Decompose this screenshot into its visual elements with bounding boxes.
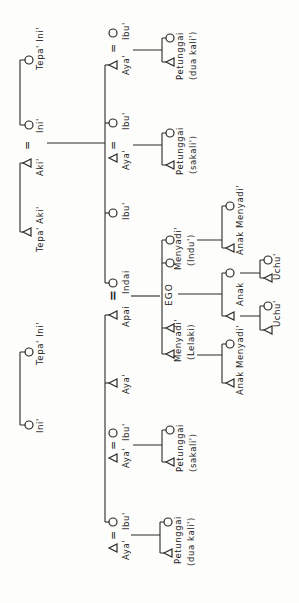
- label-petunggai-degree: (sakali'): [188, 433, 198, 472]
- label-tepa-ini: Tepa' Ini': [35, 27, 45, 71]
- label-menyadi-lelaki-sub: (Lelaki): [186, 324, 196, 360]
- marriage-sign-parents: =: [105, 290, 120, 301]
- male-symbol-icon: [23, 159, 31, 167]
- female-symbol-icon: [109, 209, 117, 217]
- marriage-sign: =: [107, 44, 120, 53]
- label-apai: Apai: [121, 306, 131, 327]
- children-group: Anak Menyadi' Anak Anak Menyadi': [178, 185, 245, 395]
- label-aya: Aya': [121, 55, 131, 75]
- male-symbol-icon: [226, 379, 234, 387]
- label-anak-menyadi: Anak Menyadi': [235, 325, 245, 395]
- female-symbol-icon: [25, 56, 33, 64]
- male-symbol-icon: [109, 544, 117, 552]
- female-symbol-icon: [109, 518, 117, 526]
- female-symbol-icon: [264, 256, 272, 264]
- label-ibu: Ibu': [121, 202, 131, 220]
- label-ibu: Ibu': [121, 512, 131, 530]
- male-symbol-icon: [164, 549, 172, 557]
- male-symbol-icon: [264, 326, 272, 334]
- male-symbol-icon: [166, 58, 174, 66]
- male-symbol-icon: [109, 61, 117, 69]
- label-uchu: Uchu': [272, 300, 282, 327]
- label-ibu: Ibu': [121, 423, 131, 441]
- label-menyadi-indu: Menyadi': [173, 227, 183, 270]
- female-symbol-icon: [226, 202, 234, 210]
- female-symbol-icon: [166, 426, 174, 434]
- label-menyadi-indu-sub: (Indu'): [186, 234, 196, 266]
- male-symbol-icon: [166, 161, 174, 169]
- female-symbol-icon: [109, 429, 117, 437]
- label-petunggai-degree: (dua kali'): [188, 31, 198, 80]
- male-symbol-icon: [109, 154, 117, 162]
- marriage-sign: =: [107, 531, 120, 540]
- grandchildren-group: Uchu' Uchu': [240, 253, 282, 334]
- male-symbol-icon: [109, 379, 117, 387]
- female-symbol-icon: [109, 29, 117, 37]
- female-symbol-icon: [226, 340, 234, 348]
- male-symbol-icon: [226, 244, 234, 252]
- label-aya: Aya': [121, 448, 131, 468]
- label-petunggai-degree: (sakali'): [188, 135, 198, 174]
- label-ibu: Ibu': [121, 112, 131, 130]
- female-symbol-icon: [25, 121, 33, 129]
- label-menyadi-lelaki: Menyadi': [173, 319, 183, 362]
- label-petunggai: Petunggai: [175, 424, 185, 472]
- label-ini: Ini': [35, 118, 45, 133]
- label-ego: EGO: [164, 283, 174, 306]
- male-symbol-icon: [166, 458, 174, 466]
- female-symbol-icon: [226, 269, 234, 277]
- label-aya: Aya': [121, 150, 131, 170]
- marriage-sign: =: [21, 141, 34, 150]
- label-anak: Anak: [235, 282, 245, 306]
- label-tepa-ini: Tepa' Ini': [35, 322, 45, 366]
- male-symbol-icon: [226, 312, 234, 320]
- label-petunggai: Petunggai: [175, 127, 185, 175]
- male-symbol-icon: [23, 228, 31, 236]
- label-ibu: Ibu': [121, 22, 131, 40]
- female-symbol-icon: [164, 518, 172, 526]
- label-anak-menyadi: Anak Menyadi': [235, 185, 245, 255]
- grandparents-group-top: Tepa' Ini' Ini' = Aki' Tepa' Aki': [20, 27, 105, 253]
- grandparents-group-bottom: Tepa' Ini' Ini': [20, 322, 45, 433]
- label-petunggai-degree: (dua kali'): [186, 517, 196, 566]
- label-petunggai: Petunggai: [175, 32, 185, 80]
- female-symbol-icon: [109, 279, 117, 287]
- male-symbol-icon: [109, 311, 117, 319]
- label-petunggai: Petunggai: [173, 516, 183, 564]
- kinship-diagram: Tepa' Ini' Ini' = Aki' Tepa' Aki' Tepa' …: [0, 0, 299, 603]
- female-symbol-icon: [25, 421, 33, 429]
- female-symbol-icon: [109, 119, 117, 127]
- label-uchu: Uchu': [272, 253, 282, 280]
- female-symbol-icon: [166, 129, 174, 137]
- male-symbol-icon: [109, 454, 117, 462]
- female-symbol-icon: [166, 34, 174, 42]
- male-symbol-icon: [264, 274, 272, 282]
- parents-generation-top: = Aya' Ibu' Ibu' = Aya' Ibu' Indai: [105, 22, 131, 294]
- label-tepa-aki: Tepa' Aki': [35, 206, 45, 253]
- marriage-sign: =: [107, 141, 120, 150]
- label-aki: Aki': [35, 158, 45, 176]
- female-symbol-icon: [25, 348, 33, 356]
- label-aya: Aya': [121, 374, 131, 394]
- label-indai: Indai: [121, 270, 131, 294]
- label-aya: Aya': [121, 540, 131, 560]
- female-symbol-icon: [264, 302, 272, 310]
- marriage-sign: =: [107, 441, 120, 450]
- label-ini: Ini': [35, 418, 45, 433]
- parents-generation-bottom: Apai Aya' = Ibu' Aya' = Ibu' Aya': [105, 306, 131, 560]
